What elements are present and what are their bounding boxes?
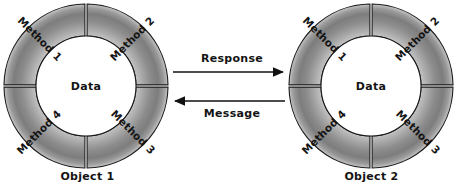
object-messaging-diagram: Data Method 1 Method 2 Method 3 Method 4… [0, 0, 456, 188]
response-label: Response [172, 52, 292, 65]
message-label: Message [172, 107, 292, 120]
object-2-caption: Object 2 [289, 170, 454, 183]
object-1-caption: Object 1 [5, 170, 170, 183]
object-2-data-label: Data [356, 80, 386, 93]
object-2-group: Data Method 1 Method 2 Method 3 Method 4 [289, 4, 453, 168]
object-1-data-label: Data [71, 80, 101, 93]
object-1-group: Data Method 1 Method 2 Method 3 Method 4 [4, 4, 168, 168]
